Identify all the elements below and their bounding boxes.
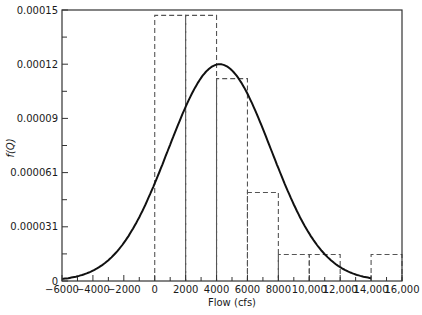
plot-border <box>62 10 402 281</box>
y-tick-label: 0.00012 <box>17 59 58 70</box>
x-tick-label: 12,000 <box>323 284 358 295</box>
x-tick-label: 8000 <box>266 284 291 295</box>
histogram-bars <box>155 15 402 281</box>
x-tick-label: 0 <box>152 284 158 295</box>
histogram-bar <box>247 192 278 281</box>
x-axis: −6000−4000−20000200040006000800010,00012… <box>45 275 419 295</box>
histogram-bar <box>186 15 217 281</box>
histogram-bar <box>155 15 186 281</box>
chart: −6000−4000−20000200040006000800010,00012… <box>0 0 422 315</box>
x-tick-label: 16,000 <box>385 284 420 295</box>
y-axis-title: f(Q) <box>5 138 16 157</box>
x-tick-label: 4000 <box>204 284 229 295</box>
x-tick-label: −2000 <box>107 284 141 295</box>
x-tick-label: 14,000 <box>354 284 389 295</box>
histogram-bar <box>217 79 248 281</box>
x-tick-label: −6000 <box>45 284 79 295</box>
y-axis: 00.0000310.0000610.000090.000120.00015 <box>10 5 68 287</box>
y-tick-label: 0.000061 <box>10 167 58 178</box>
x-tick-label: 2000 <box>173 284 198 295</box>
y-tick-label: 0.000031 <box>10 221 58 232</box>
x-tick-label: 10,000 <box>292 284 327 295</box>
y-tick-label: 0 <box>52 276 58 287</box>
y-tick-label: 0.00015 <box>17 5 58 16</box>
x-tick-label: −4000 <box>76 284 110 295</box>
plot-frame <box>62 10 402 281</box>
x-tick-label: 6000 <box>235 284 260 295</box>
x-axis-title: Flow (cfs) <box>208 297 256 308</box>
y-tick-label: 0.00009 <box>17 113 58 124</box>
